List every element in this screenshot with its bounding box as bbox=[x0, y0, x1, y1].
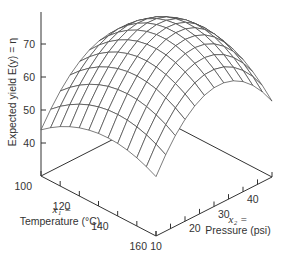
x1-tick-label: 100 bbox=[14, 180, 32, 192]
x2-axis-title: Pressure (psi) bbox=[205, 224, 270, 236]
x1-tick-label: 160 bbox=[129, 240, 147, 252]
x1-axis-var: x₁ = bbox=[52, 203, 72, 215]
z-tick-label: 70 bbox=[23, 38, 35, 50]
x2-tick-label: 40 bbox=[247, 193, 259, 205]
x2-tick-label: 20 bbox=[189, 222, 201, 234]
z-tick-label: 40 bbox=[23, 137, 35, 149]
x1-axis-title: Temperature (°C) bbox=[20, 215, 101, 227]
x2-tick-label: 10 bbox=[150, 240, 162, 252]
z-axis-title: Expected yield E(y) = η bbox=[6, 38, 18, 146]
z-tick-label: 60 bbox=[23, 71, 35, 83]
z-tick-label: 50 bbox=[23, 104, 35, 116]
surface-cell bbox=[253, 77, 272, 102]
surface-mesh bbox=[41, 17, 272, 177]
response-surface-plot: 4050607010012014016010203040Expected yie… bbox=[0, 0, 287, 256]
